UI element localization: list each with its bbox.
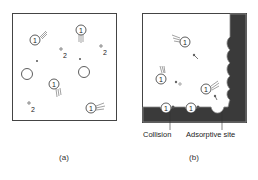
atom-2-icon: 2 — [100, 45, 107, 56]
panel-a-caption: (a) — [54, 153, 74, 162]
svg-text:1: 1 — [52, 81, 56, 88]
panel-a-frame — [13, 14, 117, 121]
svg-text:1: 1 — [33, 37, 37, 44]
small-particle-icon — [79, 58, 81, 60]
small-particle-icon — [36, 60, 38, 62]
svg-text:1: 1 — [79, 27, 83, 34]
panel-a-gas-phase: 1 1 2 2 2 1 1 — [0, 0, 129, 140]
svg-text:1: 1 — [204, 86, 208, 93]
collision-label: Collision — [143, 130, 171, 139]
molecule-1-icon: 1 — [76, 25, 86, 43]
molecule-1-icon: 1 — [86, 103, 105, 113]
large-particle-icon — [79, 67, 90, 78]
svg-text:1: 1 — [164, 105, 168, 112]
adsorptive-site-label: Adsorptive site — [186, 130, 235, 139]
molecule-1-icon: 1 — [30, 31, 47, 45]
svg-text:2: 2 — [63, 52, 67, 59]
panel-b-adsorption-surface: 1 1 1 1 1 — [129, 0, 258, 140]
svg-text:2: 2 — [31, 106, 35, 113]
svg-text:2: 2 — [103, 49, 107, 56]
svg-text:1: 1 — [189, 105, 193, 112]
atom-2-icon: 2 — [28, 102, 35, 113]
svg-text:1: 1 — [89, 105, 93, 112]
svg-text:1: 1 — [183, 39, 187, 46]
atom-2-icon: 2 — [60, 48, 67, 59]
panel-b-caption: (b) — [184, 153, 204, 162]
svg-text:1: 1 — [159, 76, 163, 83]
large-particle-icon — [22, 69, 33, 80]
molecule-1-icon: 1 — [49, 79, 61, 97]
